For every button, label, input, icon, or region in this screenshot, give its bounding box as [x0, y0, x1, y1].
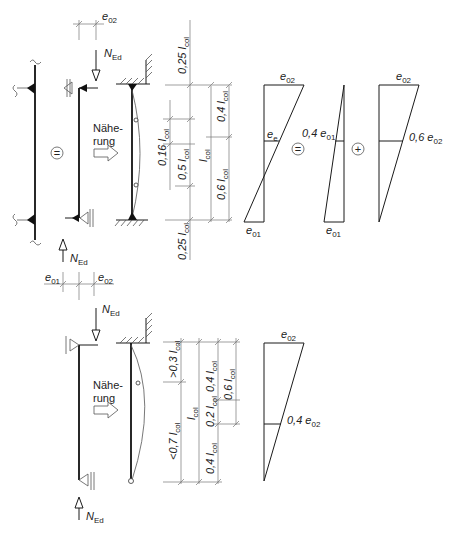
- svg-text:=: =: [295, 143, 301, 155]
- svg-text:<0,7 lcol: <0,7 lcol: [167, 422, 182, 460]
- approximation-arrow-2: Nähe- rung: [93, 379, 123, 418]
- eccentricity-diagram-e02-part: e02 0,6 e02: [379, 70, 443, 222]
- svg-text:>0,3 lcol: >0,3 lcol: [167, 340, 182, 378]
- axial-load-arrow-top-2: NEd: [92, 303, 120, 341]
- svg-text:e02: e02: [280, 70, 296, 85]
- svg-text:e02: e02: [102, 10, 118, 25]
- svg-text:=: =: [54, 147, 60, 159]
- column-hinged-bottom-case: [66, 336, 98, 490]
- svg-text:e02: e02: [281, 328, 297, 343]
- svg-text:0,4 lcol: 0,4 lcol: [204, 443, 219, 474]
- svg-text:0,4 lcol: 0,4 lcol: [204, 361, 219, 392]
- svg-text:0,4 lcol: 0,4 lcol: [215, 91, 230, 122]
- equals-symbol-1: =: [51, 147, 63, 159]
- svg-text:Nähe-: Nähe-: [93, 122, 123, 134]
- axial-load-arrow-bottom: NEd: [59, 239, 88, 267]
- column-with-hinged-supports: [64, 79, 98, 227]
- dimension-chain-top: 0,25 lcol 0,16 lcol 0,5 lcol lcol 0,4 lc…: [156, 20, 232, 260]
- svg-text:rung: rung: [93, 135, 115, 147]
- svg-text:NEd: NEd: [102, 303, 120, 318]
- equivalent-fixed-column-top: [115, 54, 152, 226]
- plus-symbol: +: [352, 143, 364, 155]
- svg-text:NEd: NEd: [70, 252, 88, 267]
- svg-text:0,5 lcol: 0,5 lcol: [176, 149, 191, 180]
- equals-symbol-2: =: [292, 143, 304, 155]
- svg-text:0,4 e01: 0,4 e01: [302, 127, 336, 142]
- dimension-chain-bottom: >0,3 lcol <0,7 lcol lcol 0,4 lcol 0,2 lc…: [163, 338, 240, 485]
- axial-load-arrow-bottom-2: NEd: [75, 497, 104, 525]
- svg-text:0,25 lcol: 0,25 lcol: [176, 37, 191, 74]
- svg-text:e02: e02: [396, 70, 412, 85]
- svg-text:0,25 lcol: 0,25 lcol: [176, 223, 191, 260]
- svg-text:lcol: lcol: [185, 407, 200, 420]
- svg-text:rung: rung: [93, 392, 115, 404]
- approximation-arrow-1: Nähe- rung: [93, 122, 123, 161]
- svg-text:+: +: [355, 143, 361, 155]
- svg-text:NEd: NEd: [104, 47, 122, 62]
- continuous-column-top: [13, 60, 41, 245]
- e02-dimension-top: e02: [73, 10, 118, 40]
- equivalent-cantilever-column: [116, 313, 152, 484]
- e01-e02-dimension: e01 e02: [44, 271, 114, 300]
- svg-text:e01: e01: [326, 224, 342, 239]
- svg-text:Nähe-: Nähe-: [93, 379, 123, 391]
- svg-text:0,6 e02: 0,6 e02: [409, 131, 443, 146]
- svg-text:0,2 lcol: 0,2 lcol: [204, 396, 219, 427]
- svg-text:0,6 lcol: 0,6 lcol: [215, 169, 230, 200]
- svg-text:0,6 lcol: 0,6 lcol: [222, 369, 237, 400]
- svg-text:lcol: lcol: [197, 149, 212, 162]
- axial-load-arrow-top: NEd: [92, 47, 122, 81]
- eccentricity-diagram-bottom: e02 0,4 e02: [264, 328, 321, 481]
- svg-text:e01: e01: [246, 224, 262, 239]
- effective-eccentricity-diagram: = e02 NEd NEd Nähe- rung: [0, 0, 456, 534]
- svg-text:0,16 lcol: 0,16 lcol: [156, 129, 171, 166]
- svg-text:NEd: NEd: [86, 510, 104, 525]
- svg-text:0,4 e02: 0,4 e02: [287, 414, 321, 429]
- eccentricity-diagram-e01-part: 0,4 e01 e01: [302, 85, 344, 239]
